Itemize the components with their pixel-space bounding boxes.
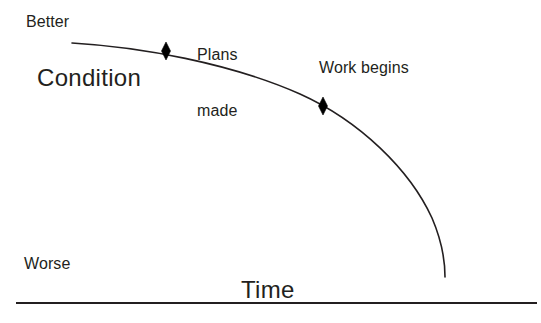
axis-title-condition: Condition bbox=[37, 64, 141, 92]
chart-canvas bbox=[0, 0, 541, 323]
annotation-plans-made-line-1: Plans bbox=[197, 46, 238, 65]
axis-label-better: Better bbox=[26, 13, 69, 32]
axis-title-time: Time bbox=[241, 276, 295, 304]
annotation-plans-made: Plans made bbox=[197, 8, 238, 159]
annotation-work-begins: Work begins bbox=[319, 59, 409, 78]
marker-work-begins bbox=[319, 97, 328, 115]
marker-plans-made bbox=[162, 42, 171, 60]
annotation-plans-made-line-2: made bbox=[197, 102, 238, 121]
condition-over-time-chart: Better Plans made Condition Work begins … bbox=[0, 0, 541, 323]
axis-label-worse: Worse bbox=[24, 255, 70, 274]
